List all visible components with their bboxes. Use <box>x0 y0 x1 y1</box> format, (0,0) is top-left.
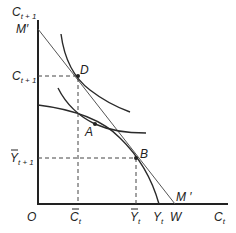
x-tick-cbar-t: Ct <box>70 209 82 226</box>
budget-label-bottom: M ′ <box>176 190 192 204</box>
y-axis-label: Ct + 1 <box>12 5 36 21</box>
dashed-guide-d <box>38 76 78 204</box>
origin-label: O <box>27 210 36 224</box>
axes <box>38 20 228 204</box>
indifference-curve-upper <box>61 34 130 112</box>
point-b-label: B <box>140 147 148 161</box>
x-tick-w: W <box>170 210 183 224</box>
svg-text:Ct + 1: Ct + 1 <box>12 5 36 21</box>
svg-text:Yt: Yt <box>153 210 164 226</box>
point-b <box>134 156 138 160</box>
x-tick-y-t: Yt <box>153 210 164 226</box>
point-d-label: D <box>80 63 89 77</box>
svg-text:Ct: Ct <box>70 210 82 226</box>
diagram: D A B M′ M ′ Ct + 1 Ct + 1 Yt + 1 O Ct Y… <box>0 0 236 233</box>
point-a-label: A <box>84 125 93 139</box>
dashed-guide-b <box>38 158 136 204</box>
y-tick-c-t1: Ct + 1 <box>12 69 36 85</box>
svg-text:Yt: Yt <box>130 210 141 226</box>
svg-text:Yt + 1: Yt + 1 <box>10 151 34 167</box>
svg-text:Ct + 1: Ct + 1 <box>12 69 36 85</box>
budget-label-top: M′ <box>16 22 29 36</box>
svg-text:Ct: Ct <box>214 210 226 226</box>
budget-line <box>38 29 175 204</box>
x-tick-ybar-t: Yt <box>130 209 141 226</box>
x-axis-label: Ct <box>214 210 226 226</box>
y-tick-ybar-t1: Yt + 1 <box>10 150 34 167</box>
point-a <box>93 122 97 126</box>
